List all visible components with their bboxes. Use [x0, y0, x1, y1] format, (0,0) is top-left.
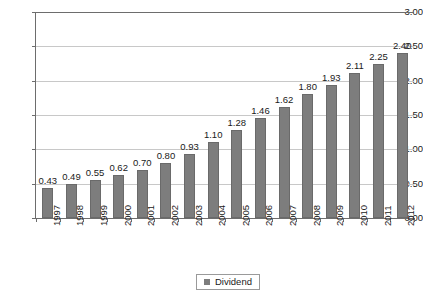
bar-value-label: 0.80 — [152, 151, 180, 161]
x-tick-label: 1998 — [75, 205, 85, 226]
x-tick-label: 2001 — [146, 205, 156, 226]
x-tick-label: 2012 — [406, 205, 416, 226]
bar-value-label: 1.46 — [246, 106, 274, 116]
x-tick-label: 2004 — [217, 205, 227, 226]
bar-value-label: 1.28 — [223, 118, 251, 128]
bar-value-label: 2.25 — [365, 52, 393, 62]
bar[interactable] — [302, 94, 313, 218]
x-tick-label: 1999 — [99, 205, 109, 226]
bar-value-label: 1.10 — [199, 130, 227, 140]
legend-label-dividend: Dividend — [215, 277, 252, 287]
x-tick-label: 2000 — [123, 205, 133, 226]
x-tick-label: 2005 — [241, 205, 251, 226]
bar-value-label: 1.93 — [317, 73, 345, 83]
bar[interactable] — [373, 64, 384, 219]
x-tick-label: 2006 — [264, 205, 274, 226]
bar-value-label: 0.93 — [176, 142, 204, 152]
x-tick-label: 2002 — [170, 205, 180, 226]
gridline — [36, 46, 414, 47]
bar[interactable] — [349, 73, 360, 218]
bar[interactable] — [279, 107, 290, 218]
bar-chart: 0.000.501.001.502.002.503.00 0.430.490.5… — [0, 0, 423, 298]
bar[interactable] — [255, 118, 266, 218]
bar-value-label: 1.62 — [270, 95, 298, 105]
x-tick-label: 2008 — [312, 205, 322, 226]
bar[interactable] — [397, 53, 408, 218]
bar[interactable] — [326, 85, 337, 218]
x-tick-label: 1997 — [52, 205, 62, 226]
bar-value-label: 2.11 — [341, 61, 369, 71]
x-tick-label: 2003 — [194, 205, 204, 226]
x-tick-label: 2007 — [288, 205, 298, 226]
x-tick-label: 2010 — [359, 205, 369, 226]
chart-legend[interactable]: Dividend — [196, 274, 260, 290]
plot-area: 0.430.490.550.620.700.800.931.101.281.46… — [36, 12, 414, 218]
bar-value-label: 1.80 — [294, 82, 322, 92]
x-tick-label: 2011 — [383, 206, 393, 226]
legend-swatch-dividend — [204, 279, 210, 285]
bar-value-label: 2.40 — [388, 41, 416, 51]
x-tick-mark — [36, 218, 37, 222]
gridline — [36, 12, 414, 13]
x-tick-label: 2009 — [335, 205, 345, 226]
